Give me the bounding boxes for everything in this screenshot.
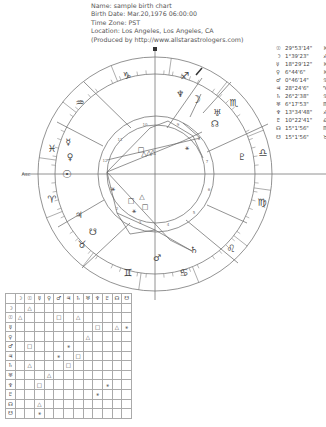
grid-header-cell: ♀ [44,294,54,304]
grid-header-cell: ☊ [112,294,122,304]
grid-cell [93,361,103,371]
grid-cell [102,341,112,351]
grid-cell [54,380,64,390]
grid-cell [83,313,93,323]
grid-cell [44,322,54,332]
grid-row: ♄△□ [6,361,132,371]
grid-cell: ⚹ [64,341,74,351]
grid-cell [112,332,122,342]
grid-cell [25,399,35,409]
grid-cell [122,313,132,323]
grid-cell: □ [73,351,83,361]
grid-cell [102,322,112,332]
grid-cell [83,380,93,390]
grid-cell [54,303,64,313]
grid-cell [35,361,45,371]
grid-cell [35,351,45,361]
taurus-icon: ♉ [78,239,87,250]
grid-cell [15,409,25,419]
grid-cell [35,370,45,380]
grid-cell [35,389,45,399]
house-number: 4 [167,222,170,227]
grid-cell [25,409,35,419]
grid-cell [93,380,103,390]
grid-cell [73,341,83,351]
aspect-square-icon: □ [142,203,149,211]
grid-cell [93,303,103,313]
house-number: 10 [142,122,148,127]
grid-cell [54,322,64,332]
grid-cell [54,370,64,380]
grid-cell [102,303,112,313]
grid-cell [64,332,74,342]
moon-pointer [196,68,202,75]
grid-row-label: ☽ [6,303,16,313]
mars-icon: ♂ [153,253,161,263]
grid-cell [112,341,122,351]
grid-cell [44,303,54,313]
grid-cell [83,351,93,361]
grid-cell [25,370,35,380]
grid-cell [44,313,54,323]
grid-cell [93,351,103,361]
grid-cell [25,389,35,399]
grid-cell [102,332,112,342]
grid-cell [122,380,132,390]
grid-cell [73,303,83,313]
pluto-icon: ♇ [238,152,246,162]
grid-cell [64,399,74,409]
grid-header-cell: ♅ [83,294,93,304]
grid-cell [73,361,83,371]
grid-cell [83,303,93,313]
grid-cell [102,409,112,419]
grid-cell [122,399,132,409]
grid-cell [54,389,64,399]
chart-wheel: □ △ △ △ ⚹ ⚹ □ △ ⚹ □ 1 2 3 4 5 6 7 8 9 10… [0,0,326,300]
mc-marker [153,47,157,51]
house-number: 3 [139,220,142,225]
grid-cell [54,399,64,409]
grid-cell [102,399,112,409]
grid-cell [54,341,64,351]
grid-cell: △ [25,303,35,313]
grid-header-cell: ♂ [54,294,64,304]
capricorn-icon: ♑ [123,70,132,81]
aquarius-icon: ♒ [76,97,85,108]
grid-cell [64,303,74,313]
grid-cell [112,351,122,361]
grid-cell [73,380,83,390]
grid-cell [73,399,83,409]
grid-cell [15,341,25,351]
house-number: 11 [117,137,123,142]
grid-cell [15,303,25,313]
mercury-icon: ☿ [65,137,71,147]
grid-cell [73,370,83,380]
aspect-sextile-icon: ⚹ [132,207,137,215]
grid-cell: ⚹ [122,322,132,332]
grid-cell [83,361,93,371]
south-node-icon: ☋ [89,227,97,237]
grid-cell [122,361,132,371]
grid-cell [64,322,74,332]
grid-cell [64,389,74,399]
leo-icon: ♌ [227,243,236,254]
grid-header-cell: ♄ [73,294,83,304]
grid-cell: □ [54,313,64,323]
grid-cell: ⚹ [93,389,103,399]
pisces-icon: ♓ [48,143,57,154]
grid-row-label: ☉ [6,313,16,323]
grid-cell: △ [25,361,35,371]
grid-row-label: ♂ [6,341,16,351]
grid-header-cell: ☋ [122,294,132,304]
grid-cell [35,322,45,332]
grid-cell: □ [64,361,74,371]
grid-header-cell: ♇ [102,294,112,304]
grid-header-row: ☽☉☿♀♂♃♄♅♆♇☊☋ [6,294,132,304]
aspect-trine-icon: △ [139,193,145,201]
grid-cell [44,332,54,342]
grid-cell [44,361,54,371]
grid-cell [15,380,25,390]
grid-header-cell: ☽ [15,294,25,304]
grid-cell [35,313,45,323]
house-number: 6 [208,187,211,192]
